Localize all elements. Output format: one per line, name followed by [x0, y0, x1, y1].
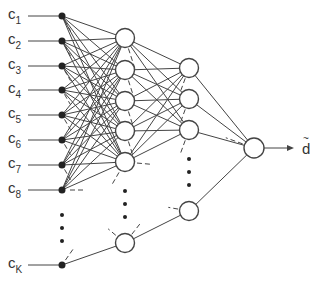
input-node: [59, 262, 66, 269]
ellipsis-dot: [123, 189, 127, 193]
dashed-connection: [168, 207, 178, 209]
ellipsis-dot: [123, 202, 127, 206]
hidden2-node: [180, 90, 199, 109]
neural-network-diagram: c1c2c3c4c5c6c7c8cKd~: [0, 0, 317, 281]
dashed-connection: [137, 163, 153, 164]
input-label: c1: [8, 5, 22, 26]
input-label: c4: [8, 79, 22, 100]
input-label-subscript: K: [16, 264, 23, 275]
input-node: [59, 112, 66, 119]
input-label-subscript: 8: [16, 189, 22, 200]
hidden2-node: [180, 202, 199, 221]
input-label: c3: [8, 55, 22, 76]
hidden2-node: [180, 59, 199, 78]
dashed-connection: [65, 249, 73, 260]
input-node: [59, 162, 66, 169]
input-label-subscript: 1: [16, 15, 22, 26]
ellipsis-dot: [187, 170, 191, 174]
input-label-subscript: 4: [16, 89, 22, 100]
input-node: [59, 38, 66, 45]
ellipsis-dot: [187, 157, 191, 161]
arrow-head-icon: [287, 145, 294, 151]
connection: [133, 215, 180, 239]
dashed-connection: [132, 222, 142, 235]
dashed-connection: [180, 140, 185, 153]
connection: [62, 246, 116, 265]
hidden1-node: [116, 29, 135, 48]
connection: [198, 133, 244, 146]
ellipsis-dot: [60, 213, 64, 217]
connection: [134, 68, 179, 69]
dashed-connections: [65, 20, 243, 260]
hidden1-node: [116, 234, 135, 253]
input-node: [59, 87, 66, 94]
hidden2-node: [180, 121, 199, 140]
hidden1-node: [116, 153, 135, 172]
input-label-subscript: 5: [16, 114, 22, 125]
input-label-subscript: 6: [16, 139, 22, 150]
dashed-connection: [112, 172, 119, 184]
input-label: c6: [8, 129, 22, 150]
hidden1-node: [116, 92, 135, 111]
input-node: [59, 13, 66, 20]
input-label: c5: [8, 104, 22, 125]
connection: [195, 75, 248, 140]
connection: [130, 76, 183, 154]
input-label-subscript: 3: [16, 65, 22, 76]
ellipsis-dot: [60, 239, 64, 243]
hidden1-node: [116, 122, 135, 141]
input-label-subscript: 7: [16, 164, 22, 175]
ellipsis-dot: [187, 183, 191, 187]
hidden1-node: [116, 61, 135, 80]
connection: [62, 137, 118, 190]
connection: [196, 155, 247, 204]
output-node: [244, 138, 264, 158]
ellipsis-dot: [60, 226, 64, 230]
dashed-connection: [108, 229, 116, 235]
network-svg: c1c2c3c4c5c6c7c8cKd~: [0, 0, 317, 281]
input-label: c7: [8, 154, 22, 175]
output-label-tilde: ~: [303, 133, 309, 144]
input-label: c8: [8, 179, 22, 200]
input-node: [59, 187, 66, 194]
connection: [62, 16, 116, 35]
input-node: [59, 63, 66, 70]
input-node: [59, 137, 66, 144]
input-label: cK: [8, 254, 23, 275]
input-label: c2: [8, 30, 22, 51]
connection: [197, 105, 246, 142]
input-label-subscript: 2: [16, 40, 22, 51]
ellipsis-dot: [123, 215, 127, 219]
